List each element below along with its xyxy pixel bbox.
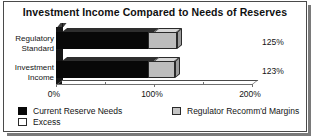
- bar-segment-regulator-margins-2[interactable]: [148, 61, 175, 78]
- legend-label-current-reserve-needs: Current Reserve Needs: [33, 106, 122, 116]
- bar-segment-current-reserve-needs-2[interactable]: [56, 61, 154, 78]
- frame-shadow-bottom: [7, 133, 311, 136]
- legend-label-excess: Excess: [33, 117, 60, 127]
- bar-segment-side-regulator-margins-1: [177, 28, 182, 49]
- legend-entry-regulator-margins[interactable]: Regulator Recomm'd Margins: [172, 106, 299, 116]
- legend-label-regulator-margins: Regulator Recomm'd Margins: [187, 106, 299, 116]
- category-label-line-2: Income: [6, 73, 54, 83]
- frame-shadow-right: [308, 5, 311, 136]
- category-label-investment-income: Investment Income: [6, 63, 54, 82]
- bar-segment-current-reserve-needs-1[interactable]: [56, 32, 154, 49]
- bar-segment-regulator-margins-1[interactable]: [148, 32, 177, 49]
- xtick-label-200: 200%: [230, 89, 270, 99]
- value-axis-back-line: [62, 80, 258, 81]
- category-label-regulatory-standard: Regulatory Standard: [6, 34, 54, 53]
- category-label-line-2: Standard: [6, 44, 54, 54]
- xtick-100: [154, 84, 155, 87]
- xtick-label-0: 0%: [34, 89, 74, 99]
- data-label-investment-income: 123%: [262, 66, 284, 76]
- category-label-line-1: Regulatory: [6, 34, 54, 44]
- xtick-label-100: 100%: [132, 89, 172, 99]
- legend-swatch-black-icon: [18, 107, 27, 115]
- data-label-regulatory-standard: 125%: [262, 37, 284, 47]
- xtick-200: [252, 84, 253, 87]
- legend-swatch-gray-icon: [172, 107, 181, 115]
- bar-segment-side-regulator-margins-2: [175, 57, 180, 78]
- xtick-0: [56, 84, 57, 87]
- xtick-50: [105, 82, 106, 85]
- category-label-line-1: Investment: [6, 63, 54, 73]
- chart-frame: Investment Income Compared to Needs of R…: [3, 1, 307, 132]
- legend-entry-current-reserve-needs[interactable]: Current Reserve Needs: [18, 106, 122, 116]
- legend-entry-excess[interactable]: Excess: [18, 117, 60, 127]
- legend-swatch-white-icon: [18, 118, 27, 126]
- xtick-150: [203, 82, 204, 85]
- chart-legend: Current Reserve Needs Excess Regulator R…: [4, 106, 308, 132]
